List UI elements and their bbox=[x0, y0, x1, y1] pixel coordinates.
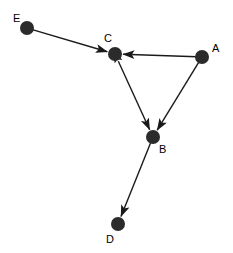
node-label-e: E bbox=[13, 12, 20, 24]
graph-diagram: ECABD bbox=[0, 0, 233, 253]
node-a[interactable] bbox=[195, 50, 209, 64]
node-b[interactable] bbox=[146, 130, 160, 144]
edge-a-b bbox=[157, 62, 199, 130]
node-label-b: B bbox=[159, 143, 166, 155]
node-d[interactable] bbox=[111, 217, 125, 231]
edge-b-d bbox=[121, 142, 151, 216]
edge-e-c bbox=[32, 30, 107, 52]
node-layer bbox=[20, 21, 209, 231]
node-c[interactable] bbox=[108, 47, 122, 61]
graph-canvas: ECABD bbox=[0, 0, 233, 253]
node-label-c: C bbox=[104, 32, 112, 44]
node-label-d: D bbox=[106, 233, 114, 245]
node-e[interactable] bbox=[20, 21, 34, 35]
edge-a-c bbox=[123, 54, 197, 57]
label-layer: ECABD bbox=[13, 12, 220, 245]
node-label-a: A bbox=[212, 42, 220, 54]
edge-c-b bbox=[118, 61, 149, 129]
